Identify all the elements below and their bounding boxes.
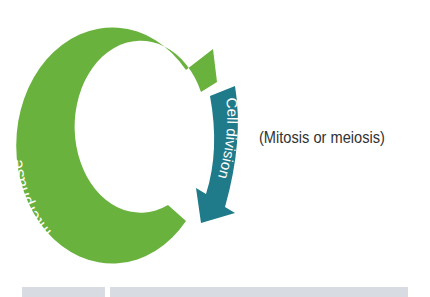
footer-bar-right — [110, 287, 408, 297]
cell-cycle-diagram: Interphase Cell division (Mitosis or mei… — [0, 0, 430, 297]
division-note: (Mitosis or meiosis) — [259, 128, 385, 148]
footer-bar-left — [22, 287, 105, 297]
cycle-arrows: Interphase Cell division — [0, 0, 430, 297]
